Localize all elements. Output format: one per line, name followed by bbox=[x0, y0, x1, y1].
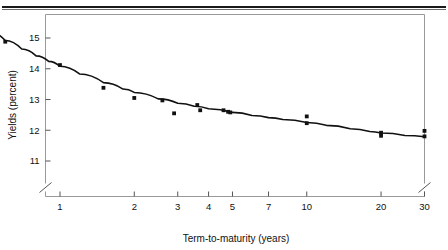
data-point bbox=[228, 111, 232, 115]
x-tick-label: 3 bbox=[175, 201, 180, 212]
plot-frame bbox=[46, 15, 425, 197]
data-point bbox=[305, 115, 309, 119]
data-point bbox=[379, 134, 383, 138]
fit-curve bbox=[0, 30, 424, 136]
x-tick-label: 10 bbox=[301, 201, 312, 212]
data-point bbox=[305, 121, 309, 125]
data-point bbox=[222, 108, 226, 112]
x-tick-label: 7 bbox=[266, 201, 271, 212]
data-point bbox=[423, 129, 427, 133]
y-axis-title: Yields (percent) bbox=[7, 70, 18, 140]
yield-curve-chart: 1112131415 123457102030 Term-to-maturity… bbox=[0, 0, 448, 250]
data-point bbox=[195, 103, 199, 107]
data-point bbox=[3, 40, 7, 44]
data-point bbox=[161, 99, 165, 103]
y-tick-label: 13 bbox=[29, 94, 40, 105]
data-point bbox=[102, 86, 106, 90]
x-tick-label: 5 bbox=[230, 201, 235, 212]
x-tick-label: 30 bbox=[419, 201, 430, 212]
x-axis: 123457102030 bbox=[57, 192, 429, 212]
x-axis-title: Term-to-maturity (years) bbox=[183, 233, 290, 244]
data-point bbox=[423, 135, 427, 139]
y-tick-label: 11 bbox=[30, 155, 40, 166]
axis-break-slash bbox=[419, 183, 431, 193]
y-tick-label: 14 bbox=[29, 63, 40, 74]
y-tick-label: 12 bbox=[29, 125, 40, 136]
x-tick-label: 1 bbox=[57, 201, 62, 212]
x-tick-label: 4 bbox=[206, 201, 211, 212]
data-point bbox=[132, 96, 136, 100]
x-tick-label: 20 bbox=[376, 201, 387, 212]
data-points bbox=[0, 29, 426, 138]
x-tick-label: 2 bbox=[132, 201, 137, 212]
y-tick-label: 15 bbox=[29, 32, 40, 43]
figure-container: 1112131415 123457102030 Term-to-maturity… bbox=[0, 0, 448, 250]
data-point bbox=[172, 111, 176, 115]
axis-break-slash bbox=[40, 183, 52, 193]
data-point bbox=[198, 108, 202, 112]
axis-break-marks bbox=[40, 183, 431, 193]
data-point bbox=[58, 63, 62, 67]
